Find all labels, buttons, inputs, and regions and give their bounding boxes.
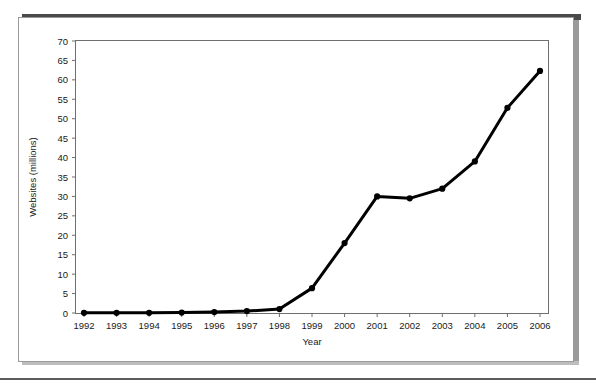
data-point	[504, 105, 510, 111]
x-tick-label: 2001	[367, 320, 388, 331]
y-tick-label: 60	[57, 74, 68, 85]
x-tick-label: 1999	[301, 320, 322, 331]
x-tick-label: 2002	[399, 320, 420, 331]
data-point	[179, 310, 185, 316]
y-tick-label: 0	[63, 308, 68, 319]
x-tick-label: 1997	[236, 320, 257, 331]
y-tick-label: 40	[57, 152, 68, 163]
data-point	[439, 186, 445, 192]
y-tick-label: 50	[57, 113, 68, 124]
x-tick-label: 2003	[432, 320, 453, 331]
y-tick-label: 65	[57, 55, 68, 66]
line-chart: 0510152025303540455055606570 19921993199…	[0, 0, 596, 384]
data-point	[211, 309, 217, 315]
y-axis-title: Websites (millions)	[27, 137, 38, 217]
x-tick-label: 1992	[73, 320, 94, 331]
y-tick-label: 55	[57, 94, 68, 105]
data-point	[81, 310, 87, 316]
x-axis-title: Year	[302, 336, 321, 347]
y-tick-label: 5	[63, 288, 68, 299]
y-tick-label: 15	[57, 249, 68, 260]
x-tick-label: 1993	[106, 320, 127, 331]
plot-frame	[76, 41, 549, 314]
data-point	[341, 240, 347, 246]
data-point	[113, 310, 119, 316]
plot-area-frame	[76, 41, 549, 314]
x-tick-label: 2000	[334, 320, 355, 331]
y-tick-label: 70	[57, 36, 68, 47]
data-point	[537, 68, 543, 74]
data-point	[276, 306, 282, 312]
x-tick-label: 2005	[497, 320, 518, 331]
y-tick-label: 10	[57, 269, 68, 280]
y-tick-label: 35	[57, 172, 68, 183]
y-tick-label: 25	[57, 210, 68, 221]
y-tick-label: 20	[57, 230, 68, 241]
data-point	[472, 158, 478, 164]
data-point	[146, 310, 152, 316]
data-point	[244, 308, 250, 314]
x-tick-label: 1998	[269, 320, 290, 331]
page-bottom-rule	[0, 378, 596, 380]
y-axis-tick-labels: 0510152025303540455055606570	[57, 36, 68, 319]
x-axis-tick-labels: 1992199319941995199619971998199920002001…	[73, 320, 550, 331]
y-tick-label: 45	[57, 133, 68, 144]
x-tick-label: 2006	[529, 320, 550, 331]
data-point	[309, 285, 315, 291]
x-tick-label: 1995	[171, 320, 192, 331]
x-tick-label: 1994	[139, 320, 160, 331]
y-tick-label: 30	[57, 191, 68, 202]
data-point	[407, 195, 413, 201]
x-tick-label: 1996	[204, 320, 225, 331]
x-tick-label: 2004	[464, 320, 485, 331]
data-point	[374, 193, 380, 199]
